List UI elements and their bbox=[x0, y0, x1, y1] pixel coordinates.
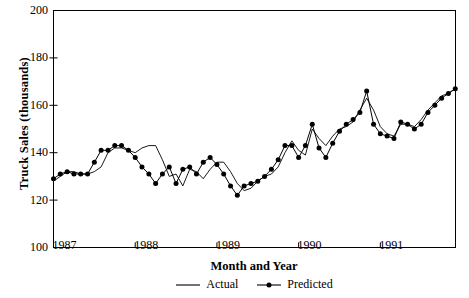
series-marker-predicted bbox=[187, 164, 192, 169]
x-axis-title: Month and Year bbox=[53, 259, 455, 274]
series-marker-predicted bbox=[412, 127, 417, 132]
legend-label-predicted: Predicted bbox=[287, 277, 332, 292]
series-marker-predicted bbox=[391, 136, 396, 141]
series-marker-predicted bbox=[119, 143, 124, 148]
x-tick-label: 1991 bbox=[379, 238, 403, 253]
truck-sales-chart: Truck Sales (thousands) 1001201401601802… bbox=[0, 0, 469, 298]
series-marker-predicted bbox=[419, 122, 424, 127]
series-marker-predicted bbox=[357, 110, 362, 115]
series-marker-predicted bbox=[337, 129, 342, 134]
series-marker-predicted bbox=[248, 181, 253, 186]
series-marker-predicted bbox=[228, 183, 233, 188]
series-marker-predicted bbox=[112, 143, 117, 148]
legend-item-actual: Actual bbox=[175, 277, 238, 292]
series-marker-predicted bbox=[133, 155, 138, 160]
series-marker-predicted bbox=[425, 110, 430, 115]
series-marker-predicted bbox=[235, 193, 240, 198]
series-marker-predicted bbox=[323, 155, 328, 160]
series-marker-predicted bbox=[303, 143, 308, 148]
series-marker-predicted bbox=[106, 148, 111, 153]
series-marker-predicted bbox=[262, 174, 267, 179]
series-marker-predicted bbox=[378, 131, 383, 136]
series-marker-predicted bbox=[126, 148, 131, 153]
series-marker-predicted bbox=[214, 162, 219, 167]
plot-frame bbox=[54, 11, 456, 248]
series-marker-predicted bbox=[453, 86, 458, 91]
legend-line-marker-icon bbox=[256, 280, 282, 290]
y-tick-label: 100 bbox=[14, 241, 48, 253]
series-marker-predicted bbox=[58, 172, 63, 177]
series-marker-predicted bbox=[160, 172, 165, 177]
legend-item-predicted: Predicted bbox=[256, 277, 332, 292]
series-marker-predicted bbox=[180, 167, 185, 172]
legend-label-actual: Actual bbox=[206, 277, 238, 292]
series-marker-predicted bbox=[201, 160, 206, 165]
plot-area bbox=[0, 0, 469, 298]
series-marker-predicted bbox=[289, 143, 294, 148]
y-tick-label: 160 bbox=[14, 99, 48, 111]
y-axis-tick-labels: 100120140160180200 bbox=[0, 0, 48, 298]
series-marker-predicted bbox=[99, 148, 104, 153]
series-marker-predicted bbox=[85, 172, 90, 177]
series-marker-predicted bbox=[351, 117, 356, 122]
y-tick-label: 180 bbox=[14, 51, 48, 63]
series-marker-predicted bbox=[385, 134, 390, 139]
series-marker-predicted bbox=[194, 172, 199, 177]
series-marker-predicted bbox=[153, 181, 158, 186]
chart-legend: Actual Predicted bbox=[53, 277, 455, 292]
x-tick-label: 1987 bbox=[53, 238, 77, 253]
series-marker-predicted bbox=[146, 172, 151, 177]
y-tick-label: 120 bbox=[14, 194, 48, 206]
series-marker-predicted bbox=[371, 122, 376, 127]
series-marker-predicted bbox=[65, 169, 70, 174]
series-marker-predicted bbox=[432, 103, 437, 108]
series-marker-predicted bbox=[364, 89, 369, 94]
series-marker-predicted bbox=[276, 157, 281, 162]
series-marker-predicted bbox=[446, 91, 451, 96]
x-tick-label: 1990 bbox=[298, 238, 322, 253]
series-marker-predicted bbox=[330, 141, 335, 146]
series-marker-predicted bbox=[174, 181, 179, 186]
series-marker-predicted bbox=[344, 122, 349, 127]
series-line-predicted bbox=[54, 89, 456, 196]
series-marker-predicted bbox=[269, 167, 274, 172]
series-marker-predicted bbox=[78, 172, 83, 177]
series-marker-predicted bbox=[92, 160, 97, 165]
series-marker-predicted bbox=[208, 155, 213, 160]
legend-line-icon bbox=[175, 280, 201, 290]
series-marker-predicted bbox=[255, 179, 260, 184]
series-marker-predicted bbox=[51, 176, 56, 181]
series-marker-predicted bbox=[439, 96, 444, 101]
series-marker-predicted bbox=[296, 155, 301, 160]
series-marker-predicted bbox=[398, 119, 403, 124]
series-marker-predicted bbox=[167, 164, 172, 169]
series-marker-predicted bbox=[317, 145, 322, 150]
x-tick-label: 1989 bbox=[216, 238, 240, 253]
series-marker-predicted bbox=[242, 183, 247, 188]
series-marker-predicted bbox=[71, 172, 76, 177]
series-marker-predicted bbox=[221, 172, 226, 177]
series-marker-predicted bbox=[405, 122, 410, 127]
series-marker-predicted bbox=[282, 143, 287, 148]
x-tick-label: 1988 bbox=[134, 238, 158, 253]
y-tick-label: 140 bbox=[14, 146, 48, 158]
series-marker-predicted bbox=[310, 122, 315, 127]
series-marker-predicted bbox=[139, 164, 144, 169]
y-tick-label: 200 bbox=[14, 4, 48, 16]
